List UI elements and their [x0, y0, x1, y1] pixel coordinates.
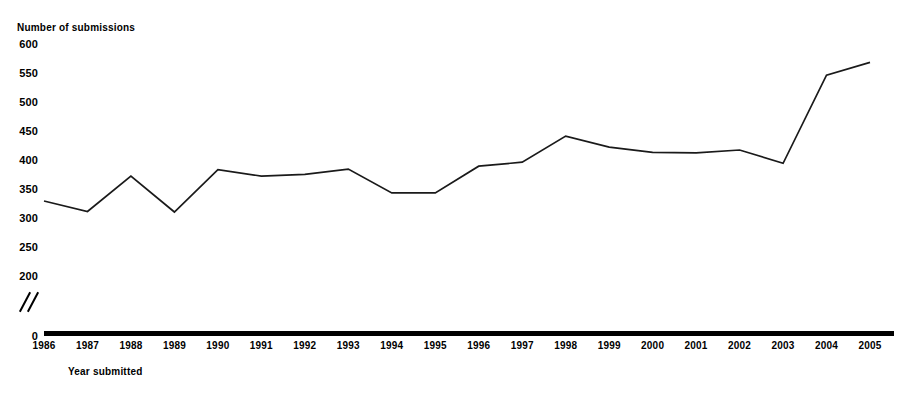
x-axis-tick-label: 2001 [676, 340, 716, 351]
x-axis-tick-label: 1998 [546, 340, 586, 351]
x-axis-tick-label: 1987 [67, 340, 107, 351]
x-axis-tick-label: 1991 [241, 340, 281, 351]
x-axis-tick-label: 1993 [328, 340, 368, 351]
x-axis-tick-label: 2005 [850, 340, 890, 351]
submissions-line-series [44, 62, 870, 212]
x-axis-tick-label: 1989 [154, 340, 194, 351]
x-axis-title: Year submitted [68, 366, 143, 377]
x-axis-tick-label: 1997 [502, 340, 542, 351]
x-axis-tick-label: 1992 [285, 340, 325, 351]
x-axis-line [44, 331, 894, 336]
x-axis-tick-label: 2002 [720, 340, 760, 351]
x-axis-tick-label: 2003 [763, 340, 803, 351]
x-axis-tick-label: 2000 [633, 340, 673, 351]
x-axis-tick-label: 1986 [24, 340, 64, 351]
x-axis-tick-label: 1995 [415, 340, 455, 351]
x-axis-tick-label: 1994 [372, 340, 412, 351]
x-axis-tick-label: 2004 [807, 340, 847, 351]
x-axis-tick-label: 1996 [459, 340, 499, 351]
chart-figure: Number of submissions 600550500450400350… [0, 0, 898, 394]
x-axis-tick-label: 1988 [111, 340, 151, 351]
x-axis-tick-label: 1990 [198, 340, 238, 351]
x-axis-tick-label: 1999 [589, 340, 629, 351]
